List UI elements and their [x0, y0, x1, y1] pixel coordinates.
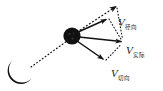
vector-symbol-actual: V	[126, 44, 133, 56]
vector-subscript-actual: 实际	[133, 52, 145, 58]
vector-symbol-resultant: V	[118, 16, 125, 28]
vector-symbol-component: V	[111, 67, 118, 79]
vector-component-arrow	[77, 41, 103, 59]
vector-actual-arrow	[79, 37, 121, 42]
vector-label-resultant: V径向	[118, 13, 136, 29]
vector-label-component: V切向	[111, 64, 129, 80]
vector-subscript-component: 切向	[118, 75, 130, 81]
crescent-moon-shape	[8, 61, 32, 84]
vector-subscript-resultant: 径向	[125, 24, 137, 30]
velocity-decomposition-figure: V径向 V实际 V切向	[0, 0, 163, 91]
vector-label-actual: V实际	[126, 41, 144, 57]
dotted-sight-line	[31, 41, 67, 67]
vector-tangential-arrow	[76, 20, 106, 34]
vector-resultant-arrow	[74, 7, 116, 35]
